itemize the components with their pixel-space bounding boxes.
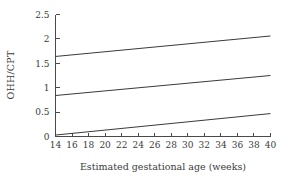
axes: [56, 15, 271, 137]
series-line-middle: [56, 76, 271, 96]
x-tick-label: 26: [149, 140, 161, 150]
y-tick-label: 2.5: [35, 10, 50, 20]
line-chart: 00.511.522.5 141618202224262830323436384…: [0, 0, 286, 176]
x-tick-label: 22: [116, 140, 127, 150]
x-tick-label: 14: [50, 140, 62, 150]
y-tick-label: 0.5: [35, 107, 50, 117]
x-tick-label: 20: [99, 140, 111, 150]
x-tick-labels: 1416182022242628303234363840: [50, 140, 277, 150]
y-tick-label: 1.5: [35, 59, 50, 69]
series-line-upper: [56, 36, 271, 56]
x-axis-title: Estimated gestational age (weeks): [80, 161, 246, 172]
series-line-lower: [56, 114, 271, 135]
x-tick-label: 18: [83, 140, 95, 150]
y-axis-title: OHH/CPT: [5, 50, 16, 99]
x-tick-label: 24: [132, 140, 144, 150]
x-tick-label: 30: [182, 140, 194, 150]
series-lines: [56, 36, 271, 135]
x-tick-label: 36: [232, 140, 244, 150]
x-tick-label: 16: [66, 140, 78, 150]
x-tick-label: 38: [248, 140, 260, 150]
x-tick-label: 34: [215, 140, 227, 150]
axis-spines: [56, 15, 271, 137]
x-tick-label: 32: [199, 140, 210, 150]
y-tick-labels: 00.511.522.5: [35, 10, 50, 142]
y-tick-label: 2: [44, 34, 50, 44]
y-tick-label: 1: [44, 83, 50, 93]
x-tick-label: 40: [265, 140, 277, 150]
tick-marks: [56, 15, 271, 137]
x-tick-label: 28: [166, 140, 178, 150]
chart-page: 00.511.522.5 141618202224262830323436384…: [0, 0, 286, 176]
